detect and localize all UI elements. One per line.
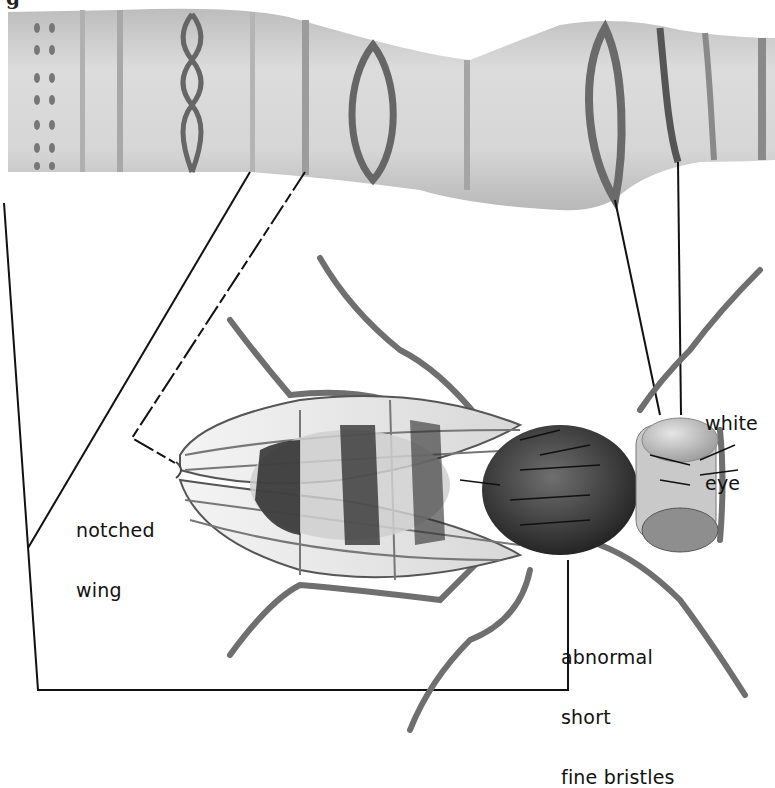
fly-thorax	[482, 425, 638, 555]
label-notched-wing-line-1: notched	[76, 520, 155, 540]
band-line	[758, 38, 766, 160]
label-notched-wing: notched wing	[76, 480, 155, 640]
label-white-eye-line-2: eye	[705, 473, 758, 493]
band-line	[80, 10, 85, 172]
label-bristles-line-3: fine bristles	[561, 767, 675, 787]
leader-line-white-eye-a	[615, 200, 660, 415]
band-line	[464, 60, 470, 190]
polytene-chromosome	[8, 9, 775, 210]
band-line	[302, 20, 309, 175]
label-bristles-line-1: abnormal	[561, 647, 675, 667]
label-white-eye: white eye	[705, 373, 758, 533]
label-white-eye-line-1: white	[705, 413, 758, 433]
leader-line-white-eye-b	[678, 162, 681, 415]
band-line	[250, 12, 255, 172]
label-bristles: abnormal short fine bristles	[561, 607, 675, 788]
figure-caption-fragment: g	[6, 0, 20, 10]
fly-leg	[410, 570, 530, 730]
label-notched-wing-line-2: wing	[76, 580, 155, 600]
label-bristles-line-2: short	[561, 707, 675, 727]
band-line	[117, 10, 123, 172]
